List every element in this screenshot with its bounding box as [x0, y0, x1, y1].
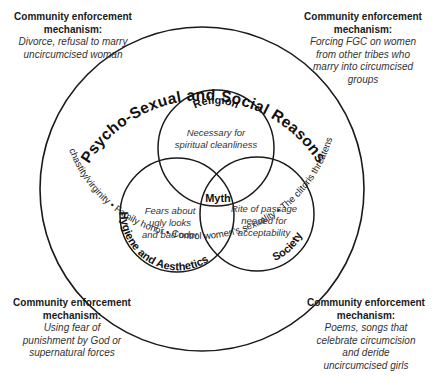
religion-desc-line: spiritual cleanliness	[175, 139, 258, 150]
hygiene-desc-line: ugly looks	[149, 217, 191, 228]
society-desc-line: Rite of passage	[231, 203, 297, 214]
society-desc-line: needed for	[241, 215, 287, 226]
society-desc-line: acceptability	[238, 227, 292, 238]
hygiene-desc-line: Fears about	[145, 205, 196, 216]
outer-circle	[40, 27, 364, 351]
hygiene-desc-line: and bad odor	[142, 229, 199, 240]
society-circle	[200, 157, 314, 271]
fgc-reasons-diagram: Community enforcement mechanism: Divorce…	[0, 0, 436, 378]
center-myth-label: Myth	[205, 192, 231, 204]
religion-desc-line: Necessary for	[187, 127, 246, 138]
venn-diagram-svg: Psycho-Sexual and Social Reasons Maintai…	[0, 0, 436, 378]
